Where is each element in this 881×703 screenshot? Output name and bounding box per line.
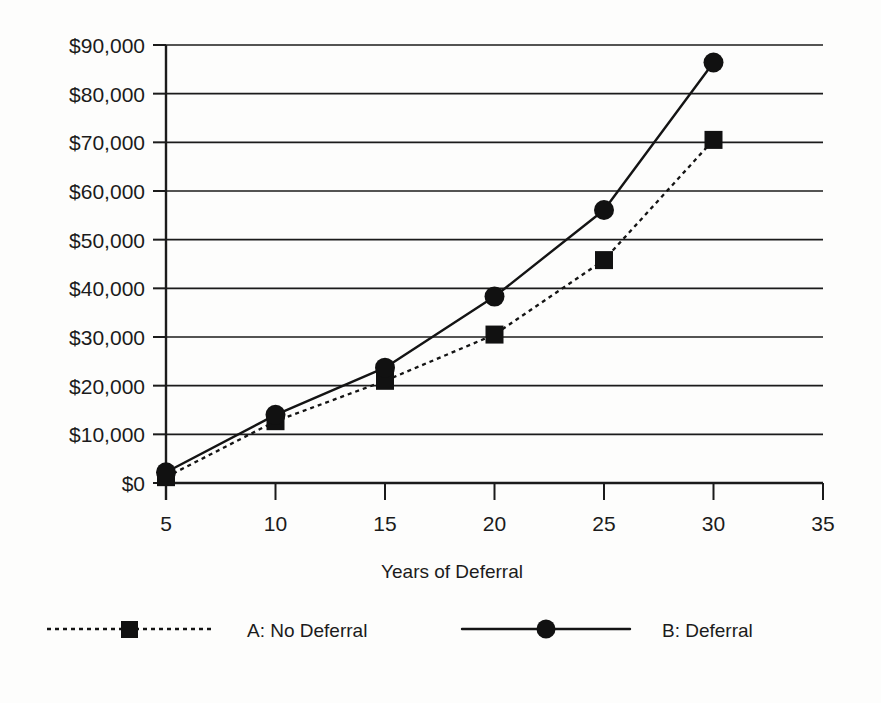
y-axis-tick-label: $90,000 — [69, 34, 145, 57]
x-axis-tick-label: 25 — [592, 512, 615, 535]
legend-entry-b: B: Deferral — [462, 620, 753, 642]
x-axis-tick-label: 30 — [702, 512, 725, 535]
x-axis-ticks — [166, 483, 823, 500]
data-point-marker-a — [705, 131, 723, 149]
y-axis-tick-label: $20,000 — [69, 375, 145, 398]
legend-entry-a: A: No Deferral — [47, 620, 367, 641]
gridlines-group — [166, 45, 823, 434]
legend-label-a: A: No Deferral — [247, 620, 367, 641]
data-point-marker-a — [486, 326, 504, 344]
y-axis-tick-label: $70,000 — [69, 131, 145, 154]
x-axis-tick-label: 15 — [373, 512, 396, 535]
data-point-marker-b — [704, 53, 724, 73]
x-axis-tick-label: 35 — [811, 512, 834, 535]
data-point-marker-b — [594, 200, 614, 220]
data-point-marker-a — [595, 251, 613, 269]
legend-label-b: B: Deferral — [662, 620, 753, 641]
series-markers-b-deferral — [156, 53, 724, 483]
series-line-b-deferral — [166, 63, 714, 473]
x-axis-title: Years of Deferral — [381, 561, 523, 582]
chart-page: $0$10,000$20,000$30,000$40,000$50,000$60… — [0, 0, 881, 703]
data-point-marker-b — [266, 405, 286, 425]
y-axis-tick-labels: $0$10,000$20,000$30,000$40,000$50,000$60… — [69, 34, 145, 495]
y-axis-tick-label: $10,000 — [69, 423, 145, 446]
x-axis-tick-label: 20 — [483, 512, 506, 535]
data-point-marker-b — [156, 462, 176, 482]
data-point-marker-b — [375, 358, 395, 378]
square-marker-icon — [121, 621, 138, 638]
x-axis-tick-label: 5 — [160, 512, 172, 535]
y-axis-tick-label: $50,000 — [69, 229, 145, 252]
x-axis-tick-labels: 5101520253035 — [160, 512, 835, 535]
circle-marker-icon — [537, 620, 556, 639]
data-point-marker-b — [485, 287, 505, 307]
y-axis-tick-label: $40,000 — [69, 277, 145, 300]
line-chart: $0$10,000$20,000$30,000$40,000$50,000$60… — [0, 0, 881, 703]
y-axis-tick-label: $80,000 — [69, 83, 145, 106]
y-axis-tick-label: $30,000 — [69, 326, 145, 349]
y-axis-tick-label: $60,000 — [69, 180, 145, 203]
y-axis-ticks — [153, 45, 166, 483]
y-axis-tick-label: $0 — [122, 472, 145, 495]
x-axis-tick-label: 10 — [264, 512, 287, 535]
